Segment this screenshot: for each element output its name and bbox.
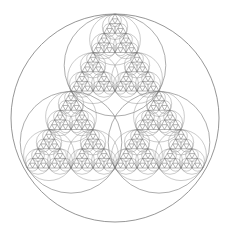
- circle: [98, 33, 111, 46]
- triangle: [121, 38, 127, 43]
- triangle: [82, 154, 88, 159]
- circle: [98, 72, 111, 85]
- triangle: [74, 120, 80, 125]
- triangle: [121, 77, 127, 82]
- triangle: [77, 115, 83, 120]
- circle: [131, 53, 144, 66]
- triangle: [55, 115, 61, 120]
- triangle: [118, 43, 124, 48]
- triangle: [93, 48, 99, 53]
- triangle: [88, 57, 94, 62]
- triangle: [140, 120, 146, 125]
- triangle: [77, 77, 83, 82]
- triangle: [60, 105, 66, 110]
- triangle: [107, 24, 113, 29]
- triangle: [126, 77, 132, 82]
- triangle: [99, 154, 105, 159]
- triangle: [143, 77, 149, 82]
- triangle: [63, 158, 69, 163]
- triangle: [165, 115, 171, 120]
- triangle: [129, 43, 135, 48]
- triangle: [195, 158, 201, 163]
- sierpinski-circles-figure: [0, 0, 230, 236]
- triangle: [107, 81, 113, 86]
- circle-layer: [11, 14, 219, 222]
- triangle: [52, 139, 58, 144]
- triangle: [148, 77, 154, 82]
- circle: [120, 149, 133, 162]
- triangle: [82, 115, 88, 120]
- triangle: [74, 158, 80, 163]
- triangle: [71, 86, 77, 91]
- triangle: [121, 28, 127, 33]
- circle: [120, 72, 133, 85]
- triangle: [99, 144, 105, 149]
- triangle: [104, 77, 110, 82]
- triangle: [85, 139, 91, 144]
- triangle: [143, 144, 149, 149]
- triangle: [162, 158, 168, 163]
- circle: [54, 110, 67, 123]
- circle: [54, 149, 67, 162]
- triangle: [38, 154, 44, 159]
- triangle: [151, 101, 157, 106]
- triangle: [82, 67, 88, 72]
- triangle: [176, 125, 182, 130]
- circle: [142, 110, 155, 123]
- triangle: [110, 19, 116, 24]
- triangle: [93, 134, 99, 139]
- triangle: [74, 81, 80, 86]
- triangle: [170, 144, 176, 149]
- triangle: [143, 67, 149, 72]
- triangle: [107, 43, 113, 48]
- triangle: [126, 38, 132, 43]
- triangle: [85, 62, 91, 67]
- triangle: [118, 24, 124, 29]
- triangle: [165, 105, 171, 110]
- circle: [11, 14, 219, 222]
- circle: [142, 149, 155, 162]
- triangle: [44, 134, 50, 139]
- circle: [131, 130, 144, 143]
- triangle: [38, 144, 44, 149]
- triangle: [129, 158, 135, 163]
- triangle: [173, 139, 179, 144]
- triangle: [96, 43, 102, 48]
- triangle: [121, 154, 127, 159]
- triangle: [187, 144, 193, 149]
- triangle: [165, 154, 171, 159]
- triangle: [148, 105, 154, 110]
- triangle: [104, 38, 110, 43]
- circle: [32, 149, 45, 162]
- triangle: [85, 120, 91, 125]
- triangle: [151, 120, 157, 125]
- triangle: [126, 67, 132, 72]
- triangle: [137, 125, 143, 130]
- triangle: [99, 77, 105, 82]
- triangle: [151, 81, 157, 86]
- circle: [175, 130, 188, 143]
- triangle: [99, 38, 105, 43]
- triangle: [96, 81, 102, 86]
- triangle: [170, 154, 176, 159]
- triangle: [96, 158, 102, 163]
- circle: [87, 53, 100, 66]
- triangle: [85, 158, 91, 163]
- triangle: [52, 158, 58, 163]
- triangle: [132, 48, 138, 53]
- triangle: [85, 81, 91, 86]
- triangle: [33, 154, 39, 159]
- triangle: [96, 139, 102, 144]
- triangle: [63, 120, 69, 125]
- triangle: [140, 62, 146, 67]
- triangle: [126, 154, 132, 159]
- circle: [76, 110, 89, 123]
- triangle: [129, 139, 135, 144]
- triangle: [198, 163, 204, 168]
- triangle: [148, 115, 154, 120]
- triangle: [63, 101, 69, 106]
- triangle: [104, 154, 110, 159]
- triangle: [170, 115, 176, 120]
- triangle: [118, 81, 124, 86]
- triangle: [129, 81, 135, 86]
